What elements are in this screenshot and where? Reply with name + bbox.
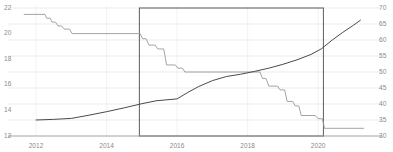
left-axis-tick-label: 18 xyxy=(4,56,11,63)
x-axis-tick-label: 2020 xyxy=(301,143,335,150)
x-axis-tick-label: 2014 xyxy=(90,143,124,150)
left-axis-tick-label: 12 xyxy=(4,133,11,140)
step-series-line xyxy=(24,14,364,128)
left-axis-tick-label: 20 xyxy=(4,30,11,37)
x-gridlines-group xyxy=(36,6,318,136)
left-axis-tick-label: 22 xyxy=(4,5,11,12)
x-axis-tick-label: 2016 xyxy=(160,143,194,150)
right-axis-tick-label: 65 xyxy=(379,21,386,28)
right-axis-tick-label: 40 xyxy=(379,101,386,108)
chart-container: 121416182022 303540455055606570 20122014… xyxy=(0,0,393,152)
right-axis-tick-label: 70 xyxy=(379,5,386,12)
right-axis-tick-label: 55 xyxy=(379,53,386,60)
right-axis-tick-label: 60 xyxy=(379,37,386,44)
right-axis-tick-label: 35 xyxy=(379,117,386,124)
right-axis-tick-label: 45 xyxy=(379,85,386,92)
rising-series-line xyxy=(36,20,360,120)
right-axis-tick-label: 50 xyxy=(379,69,386,76)
x-axis-tick-label: 2018 xyxy=(231,143,265,150)
left-axis-tick-label: 14 xyxy=(4,107,11,114)
chart-plot-area xyxy=(0,0,393,152)
x-axis-tick-label: 2012 xyxy=(19,143,53,150)
left-axis-tick-label: 16 xyxy=(4,81,11,88)
right-axis-tick-label: 30 xyxy=(379,133,386,140)
